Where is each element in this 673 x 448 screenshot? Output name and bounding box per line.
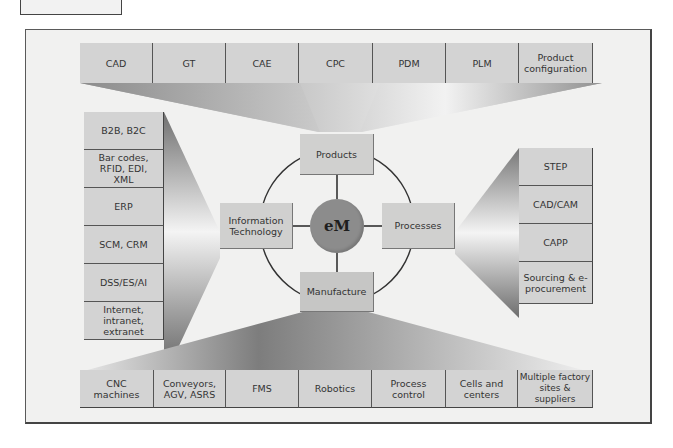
tech-cad-cam: CAD/CAM	[519, 186, 593, 224]
tech-sourcing-e-procurement: Sourcing & e-procurement	[519, 262, 593, 304]
pillar-processes: Processes	[382, 203, 455, 249]
tech-internet-intranet-extranet: Internet, intranet, extranet	[84, 302, 164, 340]
tech-cae: CAE	[226, 43, 299, 83]
tech-cad: CAD	[80, 43, 153, 83]
tech-robotics: Robotics	[299, 370, 372, 408]
tech-cpc: CPC	[299, 43, 373, 83]
tech-scm-crm: SCM, CRM	[84, 226, 164, 264]
pillar-manufacture: Manufacture	[300, 272, 374, 312]
tech-step: STEP	[519, 148, 593, 186]
tech-multiple-factory-sites: Multiple factory sites & suppliers	[518, 370, 593, 408]
tech-pdm: PDM	[373, 43, 446, 83]
tech-capp: CAPP	[519, 224, 593, 262]
tech-b2b-b2c: B2B, B2C	[84, 112, 164, 150]
tech-fms: FMS	[226, 370, 299, 408]
pillar-products: Products	[300, 134, 374, 175]
tech-process-control: Process control	[372, 370, 446, 408]
tech-conveyors-agv-asrs: Conveyors, AGV, ASRS	[154, 370, 226, 408]
tech-cells-and-centers: Cells and centers	[446, 370, 518, 408]
tech-cnc-machines: CNC machines	[80, 370, 154, 408]
pillar-information-technology: Information Technology	[220, 203, 293, 249]
tech-erp: ERP	[84, 188, 164, 226]
tech-dss-es-ai: DSS/ES/AI	[84, 264, 164, 302]
tech-product-configuration: Product configuration	[519, 43, 593, 83]
process-funnel	[455, 148, 519, 318]
tech-barcodes-rfid: Bar codes, RFID, EDI, XML	[84, 150, 164, 188]
tech-plm: PLM	[446, 43, 519, 83]
tech-gt: GT	[153, 43, 226, 83]
em-hub: eM	[310, 199, 364, 253]
